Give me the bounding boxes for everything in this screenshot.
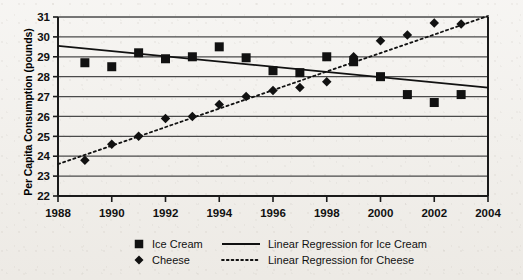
y-tick-label: 25 (37, 131, 50, 143)
legend-entry-label: Cheese (152, 254, 190, 266)
data-point-marker-square (188, 52, 197, 61)
data-point-marker-square (457, 90, 466, 99)
data-point-marker-square (80, 58, 89, 67)
y-tick-label: 28 (37, 71, 50, 83)
data-point-marker-diamond (107, 140, 117, 150)
axes-group (58, 17, 488, 196)
x-tick-label: 1996 (260, 207, 286, 219)
data-point-marker-diamond (322, 77, 332, 87)
data-point-marker-diamond (295, 83, 305, 93)
legend-entry-label: Linear Regression for Ice Cream (268, 238, 427, 250)
y-tick-label: 23 (37, 170, 50, 182)
data-point-marker-diamond (376, 36, 386, 46)
data-point-marker-diamond (268, 86, 278, 96)
data-point-marker-square (135, 240, 144, 249)
data-point-marker-square (269, 66, 278, 75)
data-points-ice-cream (80, 42, 465, 107)
data-point-marker-diamond (134, 132, 144, 142)
data-point-marker-square (215, 42, 224, 51)
y-tick-label: 31 (37, 11, 50, 23)
data-point-marker-diamond (403, 30, 413, 40)
y-tick-label: 30 (37, 31, 50, 43)
x-tick-label: 1998 (314, 207, 340, 219)
data-point-marker-diamond (135, 256, 144, 265)
y-tick-label: 22 (37, 190, 50, 202)
legend-entry-label: Ice Cream (152, 238, 203, 250)
y-tick-label: 26 (37, 111, 50, 123)
x-tick-label: 2004 (475, 207, 501, 219)
x-tick-label: 2002 (421, 207, 447, 219)
x-tick-label: 1988 (45, 207, 71, 219)
data-point-marker-diamond (188, 112, 198, 122)
y-tick-label: 29 (37, 51, 50, 63)
y-axis-ticks-group: 22232425262728293031 (37, 11, 58, 202)
legend-entry-label: Linear Regression for Cheese (268, 254, 414, 266)
data-point-marker-square (403, 90, 412, 99)
chart-canvas: 22232425262728293031 1988199019921994199… (0, 0, 523, 280)
data-point-marker-square (107, 62, 116, 71)
gridlines-group (58, 17, 488, 196)
x-axis-ticks-group: 198819901992199419961998200020022004 (45, 196, 501, 219)
data-point-marker-diamond (430, 18, 440, 28)
data-point-marker-square (322, 52, 331, 61)
x-tick-label: 1992 (153, 207, 179, 219)
x-tick-label: 1994 (206, 207, 232, 219)
x-tick-label: 2000 (368, 207, 394, 219)
data-point-marker-square (295, 68, 304, 77)
chart-figure: Per Capita Consumption (pounds) 22232425… (0, 0, 523, 280)
data-point-marker-diamond (161, 114, 171, 124)
y-tick-label: 24 (37, 150, 50, 162)
data-point-marker-square (134, 48, 143, 57)
chart-legend: Ice CreamCheeseLinear Regression for Ice… (135, 238, 427, 266)
x-tick-label: 1990 (99, 207, 125, 219)
data-point-marker-square (430, 98, 439, 107)
data-point-marker-square (242, 53, 251, 62)
y-tick-label: 27 (37, 91, 50, 103)
data-point-marker-diamond (80, 155, 90, 165)
data-point-marker-square (161, 54, 170, 63)
data-point-marker-square (376, 72, 385, 81)
